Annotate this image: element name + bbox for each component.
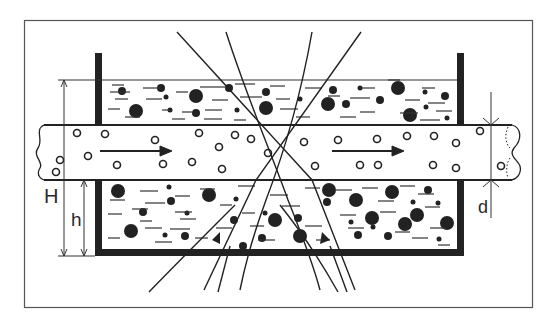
- label-d: d: [478, 198, 488, 216]
- tank-bottom: [95, 249, 464, 256]
- tank-left-wall-upper: [95, 53, 102, 125]
- dimension-h: [81, 180, 87, 256]
- diagram-svg: [0, 0, 553, 324]
- pipe-left-break: [36, 125, 46, 180]
- tank-right-wall-lower: [457, 180, 464, 256]
- arrow-right-icon: [392, 146, 404, 156]
- arrow-up-icon: [320, 232, 330, 244]
- diagram-canvas: H h d: [0, 0, 553, 324]
- arrow-right-icon: [160, 146, 172, 156]
- flow-arrows: [100, 146, 404, 156]
- pipe-right-break: [510, 125, 520, 180]
- particles-lower: [111, 183, 454, 250]
- tank-left-wall-lower: [95, 180, 102, 256]
- ray-6: [280, 205, 338, 292]
- tank-right-wall-upper: [457, 53, 464, 125]
- label-h: h: [71, 210, 82, 229]
- particles-upper: [118, 81, 450, 122]
- label-H: H: [44, 186, 58, 206]
- arrow-up-icon: [212, 232, 220, 244]
- ray-arrowheads: [212, 232, 330, 244]
